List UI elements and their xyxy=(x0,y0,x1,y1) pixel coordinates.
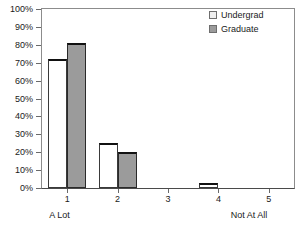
y-axis-tick-label: 30% xyxy=(15,130,33,139)
legend-swatch-undergrad-icon xyxy=(209,11,217,19)
y-axis-tick-label: 50% xyxy=(15,94,33,103)
legend-entry-undergrad[interactable]: Undergrad xyxy=(209,9,264,21)
x-axis-tick-label: 3 xyxy=(165,194,170,204)
bar-group xyxy=(149,9,187,188)
bar-group xyxy=(99,9,137,188)
bar-undergrad-1 xyxy=(48,59,67,188)
chart-legend: UndergradGraduate xyxy=(209,9,293,39)
bar-group xyxy=(48,9,86,188)
bar-graduate-1 xyxy=(67,43,86,188)
x-axis-tick-label: 5 xyxy=(266,194,271,204)
y-axis-tick-label: 80% xyxy=(15,40,33,49)
y-axis-tick-label: 20% xyxy=(15,148,33,157)
legend-label: Undergrad xyxy=(221,10,264,20)
x-axis: A Lot Not At All 12345 xyxy=(42,189,294,225)
y-axis-tick-label: 10% xyxy=(15,166,33,175)
bar-undergrad-2 xyxy=(99,143,118,188)
x-axis-high-label: Not At All xyxy=(231,210,268,220)
legend-entry-graduate[interactable]: Graduate xyxy=(209,23,259,35)
y-axis-tick-label: 0% xyxy=(20,184,33,193)
bar-graduate-2 xyxy=(118,152,137,188)
legend-swatch-graduate-icon xyxy=(209,25,217,33)
y-axis-tick-label: 40% xyxy=(15,112,33,121)
x-axis-tick-mark xyxy=(218,189,219,193)
x-axis-tick-mark xyxy=(67,189,68,193)
bar-chart: 0%10%20%30%40%50%60%70%80%90%100% A Lot … xyxy=(0,0,303,225)
y-axis-tick-label: 60% xyxy=(15,76,33,85)
y-axis-tick-label: 90% xyxy=(15,22,33,31)
bar-undergrad-4 xyxy=(199,183,218,188)
x-axis-tick-label: 2 xyxy=(115,194,120,204)
x-axis-tick-mark xyxy=(269,189,270,193)
x-axis-tick-label: 1 xyxy=(65,194,70,204)
x-axis-tick-mark xyxy=(168,189,169,193)
x-axis-tick-mark xyxy=(118,189,119,193)
y-axis-tick-label: 70% xyxy=(15,58,33,67)
x-axis-tick-label: 4 xyxy=(216,194,221,204)
legend-label: Graduate xyxy=(221,24,259,34)
y-axis: 0%10%20%30%40%50%60%70%80%90%100% xyxy=(0,0,36,190)
y-axis-tick-label: 100% xyxy=(10,5,33,14)
x-axis-low-label: A Lot xyxy=(49,210,70,220)
